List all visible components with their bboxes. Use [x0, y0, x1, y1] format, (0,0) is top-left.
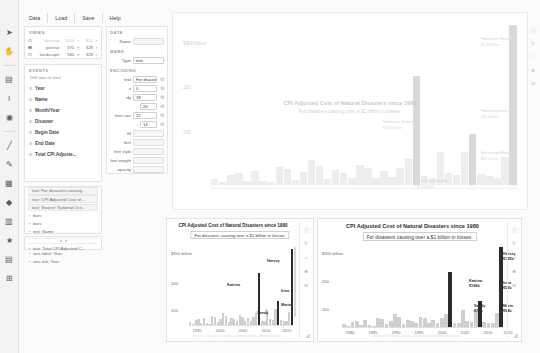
- layer-item-total-cpi-text[interactable]: ▪ text: Total CPI Adjusted C...: [25, 245, 101, 253]
- view-row-desktop[interactable]: desktop 1024 × 810 ✓: [25, 37, 101, 44]
- zoom-fit-icon[interactable]: ⌕: [302, 253, 310, 261]
- zoom-in-icon[interactable]: ⊕: [302, 267, 310, 275]
- dataset-field-name[interactable]: Name: [25, 94, 101, 105]
- bar-2004[interactable]: [405, 159, 412, 185]
- bar-1995[interactable]: [332, 170, 339, 185]
- bar-2001[interactable]: [380, 171, 387, 185]
- bar-1994[interactable]: [324, 179, 331, 185]
- layer-item-text-disasters[interactable]: text: For disasters causing...: [28, 187, 98, 195]
- bar-2005[interactable]: [258, 273, 260, 325]
- bar-1996[interactable]: [340, 173, 347, 185]
- bar-2013[interactable]: [477, 174, 484, 185]
- gear-icon[interactable]: ⚙: [159, 122, 164, 127]
- zoom-in-icon[interactable]: ⊕: [531, 67, 535, 73]
- bar-2002[interactable]: [388, 177, 395, 185]
- layer-item-axis-tick-year[interactable]: ▪ axis tick: Year: [25, 258, 101, 266]
- name-input[interactable]: [133, 38, 164, 45]
- menu-item-data[interactable]: Data: [22, 13, 48, 23]
- bar-1980[interactable]: [211, 179, 218, 185]
- bar-2012[interactable]: [469, 134, 476, 185]
- view-radio[interactable]: [28, 39, 32, 43]
- layer-item-bars-1[interactable]: ▪ bars: [25, 212, 101, 220]
- dataset-field-begin-date[interactable]: Begin Date: [25, 127, 101, 138]
- pin-icon[interactable]: ⚲: [531, 40, 535, 46]
- zoom-fit-icon[interactable]: ⌕: [510, 253, 518, 261]
- bar-1985[interactable]: [251, 171, 258, 185]
- zoom-out-icon[interactable]: ⊖: [531, 80, 535, 86]
- preview-card-landscape[interactable]: CPI Adjusted Cost of Natural Disasters s…: [317, 218, 522, 342]
- bar-1999[interactable]: [364, 168, 371, 185]
- resize-grip-icon[interactable]: ◢: [512, 332, 519, 339]
- dataset-field-monthyear[interactable]: Month/Year: [25, 105, 101, 116]
- bar-1992[interactable]: [308, 160, 315, 185]
- view-check-icon[interactable]: ✓: [95, 38, 98, 43]
- menu-item-help[interactable]: Help: [103, 13, 128, 23]
- layer-item-text-cpi-title[interactable]: text: CPI Adjusted Cost of...: [28, 195, 98, 203]
- info-icon[interactable]: ⓘ: [302, 225, 310, 233]
- rect-mark-icon[interactable]: ▤: [3, 73, 16, 86]
- bar-1998[interactable]: [356, 165, 363, 185]
- bar-2017[interactable]: [291, 249, 293, 325]
- legend-icon[interactable]: ▤: [3, 253, 16, 266]
- bar-1990[interactable]: [292, 180, 299, 185]
- data-axis-icon[interactable]: ▥: [3, 215, 16, 228]
- icon-mark-icon[interactable]: ◆: [3, 196, 16, 209]
- zoom-out-icon[interactable]: ⊖: [510, 281, 518, 289]
- gear-icon[interactable]: ⚙: [159, 77, 164, 82]
- view-check-icon[interactable]: ✓: [95, 52, 98, 57]
- menu-item-save[interactable]: Save: [75, 13, 102, 23]
- preview-scrollbar[interactable]: [294, 247, 296, 317]
- stepper-icon[interactable]: ↕: [133, 122, 138, 127]
- bar-2005[interactable]: [448, 272, 452, 327]
- encoding-font-size-input[interactable]: 12: [133, 112, 157, 119]
- encoding-font-weight-input[interactable]: [133, 157, 164, 164]
- gear-icon[interactable]: ⚙: [159, 104, 164, 109]
- stepper-icon[interactable]: ↕: [133, 104, 138, 109]
- text-mark-icon[interactable]: I: [3, 92, 16, 105]
- cursor-icon[interactable]: ➤: [3, 26, 16, 39]
- bar-1986[interactable]: [259, 181, 266, 185]
- view-radio[interactable]: [28, 53, 32, 57]
- bar-1983[interactable]: [235, 173, 242, 185]
- zoom-fit-icon[interactable]: ⛶: [531, 53, 535, 60]
- drag-dot-icon[interactable]: [60, 240, 62, 242]
- bar-2003[interactable]: [396, 168, 403, 185]
- bar-1989[interactable]: [284, 169, 291, 185]
- bar-1984[interactable]: [243, 181, 250, 185]
- encoding-font-style-input[interactable]: [133, 148, 164, 155]
- bar-2014[interactable]: [485, 176, 492, 185]
- resize-grip-icon[interactable]: ◢: [304, 332, 311, 339]
- dataset-field-end-date[interactable]: End Date: [25, 138, 101, 149]
- encoding-text-input[interactable]: For disasters c...: [133, 76, 157, 83]
- encoding-fill-input[interactable]: [133, 130, 164, 137]
- preview-card-portrait[interactable]: CPI Adjusted Cost of Natural Disasters s…: [166, 218, 314, 342]
- info-icon[interactable]: ⓘ: [531, 26, 536, 33]
- encoding-font-input[interactable]: [133, 139, 164, 146]
- pen-icon[interactable]: ✎: [3, 158, 16, 171]
- hand-icon[interactable]: ✋: [3, 45, 16, 58]
- encoding-opacity-input[interactable]: [133, 166, 164, 173]
- encoding-dy-input[interactable]: 18: [133, 94, 157, 101]
- dataset-field-disaster[interactable]: Disaster: [25, 116, 101, 127]
- symbol-mark-icon[interactable]: ◉: [3, 111, 16, 124]
- bar-2015[interactable]: [493, 178, 500, 185]
- drag-dot-icon[interactable]: [65, 240, 67, 242]
- view-row-landscape[interactable]: landscape 580 × 328 ✓: [25, 51, 101, 58]
- zoom-out-icon[interactable]: ⊖: [302, 281, 310, 289]
- pin-icon[interactable]: ⚲: [510, 239, 518, 247]
- bar-1993[interactable]: [316, 166, 323, 185]
- bar-1988[interactable]: [276, 167, 283, 185]
- mark-type-input[interactable]: text: [133, 57, 164, 64]
- pin-icon[interactable]: ⚲: [302, 239, 310, 247]
- view-row-portrait[interactable]: portrait 375 × 328 ✓: [25, 44, 101, 51]
- image-mark-icon[interactable]: ▦: [3, 177, 16, 190]
- gear-icon[interactable]: ⚙: [159, 95, 164, 100]
- layer-item-text-source[interactable]: text: Source: National Oce...: [28, 204, 98, 212]
- zoom-in-icon[interactable]: ⊕: [510, 267, 518, 275]
- dataset-field-total-cpi[interactable]: Total CPI Adjuste...: [25, 149, 101, 160]
- info-icon[interactable]: ⓘ: [510, 225, 518, 233]
- bar-2017[interactable]: [509, 25, 516, 185]
- dataset-field-year[interactable]: Year: [25, 83, 101, 94]
- bar-2010[interactable]: [453, 175, 460, 185]
- line-mark-icon[interactable]: ╱: [3, 139, 16, 152]
